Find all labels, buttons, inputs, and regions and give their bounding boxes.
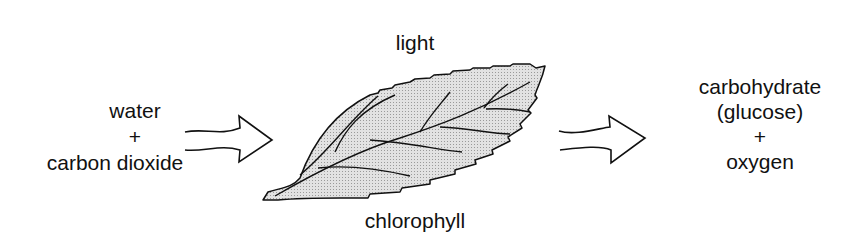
output-oxygen: oxygen [670, 149, 850, 174]
input-water: water [80, 98, 190, 123]
label-light: light [360, 30, 470, 55]
output-arrow-icon [559, 116, 645, 163]
input-plus: + [80, 124, 190, 149]
output-plus: + [670, 124, 850, 149]
output-carbohydrate: carbohydrate [670, 74, 850, 99]
label-chlorophyll: chlorophyll [340, 208, 490, 233]
leaf-icon [263, 64, 545, 200]
input-carbon-dioxide: carbon dioxide [20, 150, 210, 175]
output-glucose: (glucose) [670, 99, 850, 124]
